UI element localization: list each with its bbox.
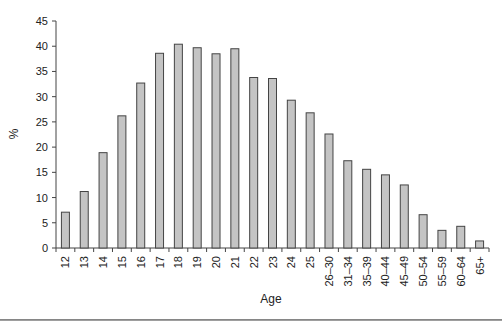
x-tick-label: 23 [267,256,279,268]
x-tick-label: 50–54 [417,256,429,287]
bars [61,44,483,248]
bar [363,169,371,248]
bar [476,241,484,248]
x-tick-label: 55–59 [436,256,448,287]
x-tick-label: 15 [116,256,128,268]
x-axis: 121314151617181920212223242526–3031–3435… [56,248,489,287]
x-tick-label: 13 [78,256,90,268]
bar [193,48,201,248]
bar [174,44,182,248]
bar [212,54,220,248]
x-tick-label: 24 [285,256,297,268]
bar [457,226,465,248]
bar [344,161,352,248]
bar [325,134,333,248]
x-tick-label: 19 [191,256,203,268]
x-tick-label: 25 [304,256,316,268]
bar [287,100,295,248]
x-tick-label: 60–64 [455,256,467,287]
x-tick-label: 45–49 [398,256,410,287]
bar [99,153,107,248]
x-tick-label: 17 [154,256,166,268]
x-tick-label: 35–39 [361,256,373,287]
y-tick-label: 5 [42,217,48,229]
x-tick-label: 40–44 [379,256,391,287]
bar [137,83,145,248]
y-tick-label: 40 [36,40,48,52]
y-tick-label: 10 [36,192,48,204]
bar [306,113,314,248]
y-tick-label: 45 [36,15,48,27]
bar [438,230,446,248]
x-axis-label: Age [260,292,282,306]
x-tick-label: 12 [59,256,71,268]
y-tick-label: 15 [36,166,48,178]
bar [250,77,258,248]
x-tick-label: 18 [172,256,184,268]
y-tick-label: 0 [42,242,48,254]
y-axis: 051015202530354045 [36,15,56,254]
x-tick-label: 20 [210,256,222,268]
x-tick-label: 22 [248,256,260,268]
bar [156,53,164,248]
x-tick-label: 26–30 [323,256,335,287]
bar [400,185,408,248]
x-tick-label: 31–34 [342,256,354,287]
bottom-divider [0,319,502,321]
bar [80,192,88,248]
y-tick-label: 30 [36,91,48,103]
bar [118,116,126,248]
age-percentage-bar-chart: 051015202530354045 121314151617181920212… [0,0,502,323]
bar [419,215,427,248]
y-tick-label: 35 [36,65,48,77]
y-tick-label: 20 [36,141,48,153]
x-tick-label: 14 [97,256,109,268]
y-tick-label: 25 [36,116,48,128]
y-axis-label: % [7,128,21,139]
x-tick-label: 21 [229,256,241,268]
bar [231,49,239,248]
bar [381,175,389,248]
x-tick-label: 65+ [474,256,486,275]
bar [269,79,277,248]
x-tick-label: 16 [135,256,147,268]
bar [61,212,69,248]
